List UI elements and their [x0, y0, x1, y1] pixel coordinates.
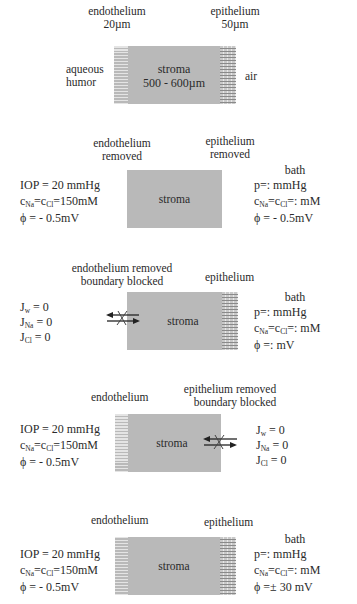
- chloride-flux: JCl = 0: [256, 453, 287, 467]
- stroma-thickness: 500 - 600µm: [128, 76, 220, 90]
- stroma-layer: stroma 500 - 600µm: [128, 46, 220, 104]
- bath-concentration: cNa=cCl=: mM: [254, 321, 320, 335]
- sodium-flux: JNa = 0: [256, 438, 288, 452]
- concentration-value: cNa=cCl=150mM: [20, 194, 98, 208]
- stroma-label: stroma: [127, 192, 222, 206]
- endothelium-label: endothelium: [82, 5, 152, 18]
- water-flux: Jw = 0: [256, 423, 285, 437]
- endothelium-removed-label-line2: removed: [82, 150, 162, 163]
- blocked-flux-arrows-icon: [105, 308, 141, 328]
- bath-potential: ϕ = - 0.5mV: [254, 211, 313, 225]
- bath-pressure: p=: mmHg: [254, 547, 306, 561]
- bath-concentration: cNa=cCl=: mM: [254, 563, 320, 577]
- stroma-layer: stroma: [127, 292, 222, 350]
- iop-value: IOP = 20 mmHg: [20, 422, 100, 436]
- stroma-label: stroma: [128, 559, 220, 573]
- bath-concentration: cNa=cCl=: mM: [254, 194, 320, 208]
- endothelium-blocked-label-line2: boundary blocked: [62, 275, 182, 288]
- bath-pressure: p=: mmHg: [254, 305, 306, 319]
- air-label: air: [245, 70, 257, 83]
- concentration-value: cNa=cCl=150mM: [20, 438, 98, 452]
- blocked-flux-arrows-icon: [202, 432, 238, 452]
- stroma-label: stroma: [142, 436, 202, 450]
- stroma-label: stroma: [128, 62, 220, 76]
- aqueous-humor-label-line2: humor: [66, 76, 96, 89]
- endothelium-layer: [114, 46, 128, 104]
- stroma-layer: stroma: [127, 170, 222, 228]
- bath-pressure: p=: mmHg: [254, 178, 306, 192]
- endothelium-removed-label-line1: endothelium: [82, 137, 162, 150]
- endothelium-layer: [115, 414, 128, 472]
- potential-value: ϕ = - 0.5mV: [20, 455, 79, 469]
- endothelium-blocked-label-line1: endothelium removed: [62, 262, 182, 275]
- epithelium-blocked-label-line2: boundary blocked: [180, 396, 290, 409]
- endothelium-layer: [115, 537, 128, 595]
- epithelium-thickness: 50µm: [205, 18, 265, 31]
- epithelium-layer: [222, 292, 238, 350]
- endothelium-label: endothelium: [91, 514, 149, 527]
- epithelium-removed-label-line2: removed: [195, 148, 265, 161]
- bath-potential: ϕ =: mV: [254, 338, 294, 352]
- epithelium-blocked-label-line1: epithelium removed: [175, 383, 285, 396]
- water-flux: Jw = 0: [20, 300, 49, 314]
- epithelium-label: epithelium: [205, 271, 254, 284]
- concentration-value: cNa=cCl=150mM: [20, 563, 98, 577]
- iop-value: IOP = 20 mmHg: [20, 178, 100, 192]
- potential-value: ϕ = - 0.5mV: [20, 580, 79, 594]
- bath-title: bath: [270, 290, 320, 304]
- stroma-label: stroma: [153, 314, 213, 328]
- bath-potential: ϕ =± 30 mV: [254, 580, 313, 594]
- potential-value: ϕ = - 0.5mV: [20, 211, 79, 225]
- epithelium-label: epithelium: [205, 5, 265, 18]
- bath-title: bath: [270, 163, 320, 177]
- epithelium-layer: [220, 537, 236, 595]
- epithelium-label: epithelium: [204, 516, 253, 529]
- stroma-layer: stroma: [128, 537, 220, 595]
- aqueous-humor-label-line1: aqueous: [66, 63, 104, 76]
- endothelium-label: endothelium: [91, 391, 149, 404]
- sodium-flux: JNa = 0: [20, 315, 52, 329]
- iop-value: IOP = 20 mmHg: [20, 547, 100, 561]
- epithelium-layer: [220, 46, 236, 104]
- epithelium-removed-label-line1: epithelium: [195, 135, 265, 148]
- endothelium-thickness: 20µm: [82, 18, 152, 31]
- chloride-flux: JCl = 0: [20, 330, 51, 344]
- bath-title: bath: [270, 532, 320, 546]
